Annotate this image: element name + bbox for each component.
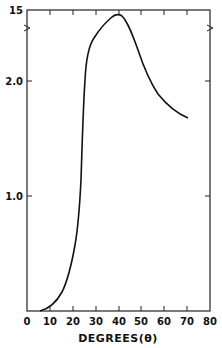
chart-plot: [0, 0, 222, 348]
x-tick-label-80: 80: [203, 316, 217, 327]
y-tick-label-15: 15: [9, 5, 23, 16]
y-ticks: [27, 81, 210, 196]
y-tick-label-2: 2.0: [5, 76, 23, 87]
x-tick-label-30: 30: [89, 316, 103, 327]
x-tick-label-10: 10: [43, 316, 57, 327]
x-axis-title: DEGREES(θ): [0, 332, 222, 345]
x-tick-label-40: 40: [112, 316, 126, 327]
y-tick-label-1: 1.0: [5, 191, 23, 202]
x-tick-label-70: 70: [180, 316, 194, 327]
data-curve: [40, 15, 188, 311]
x-tick-label-60: 60: [157, 316, 171, 327]
x-tick-label-0: 0: [24, 316, 31, 327]
x-tick-label-20: 20: [66, 316, 80, 327]
x-tick-label-50: 50: [134, 316, 148, 327]
plot-frame: [27, 10, 210, 311]
